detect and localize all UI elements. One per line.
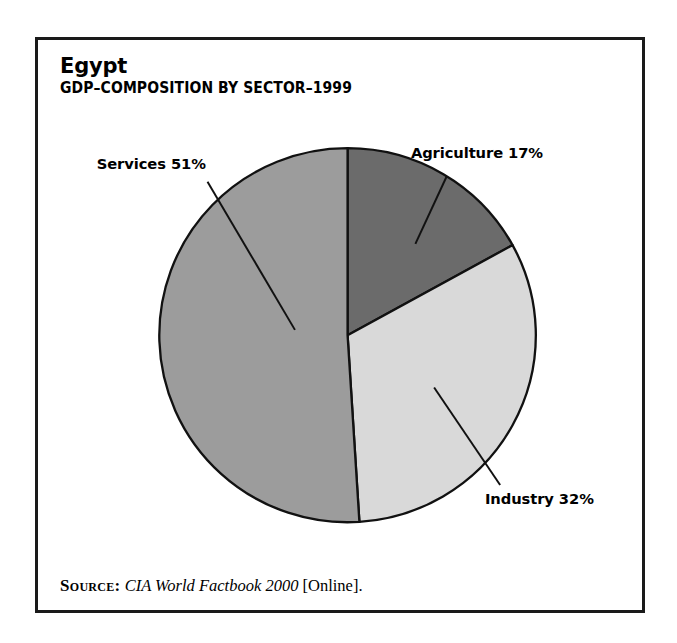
figure-root: Egypt GDP–COMPOSITION BY SECTOR–1999 Agr… — [0, 0, 677, 643]
pie-slice-services — [159, 148, 359, 522]
source-tail: [Online]. — [303, 576, 363, 595]
pie-chart: Agriculture 17%Industry 32%Services 51% — [38, 40, 642, 610]
slice-label-agriculture: Agriculture 17% — [411, 144, 544, 161]
source-note: Source: CIA World Factbook 2000 [Online]… — [60, 576, 363, 596]
figure-frame: Egypt GDP–COMPOSITION BY SECTOR–1999 Agr… — [35, 37, 645, 613]
source-title: CIA World Factbook 2000 — [125, 576, 299, 595]
pie-slice-group — [159, 148, 536, 522]
slice-label-industry: Industry 32% — [485, 490, 594, 507]
slice-label-services: Services 51% — [97, 155, 207, 172]
source-keyword: Source: — [60, 576, 121, 595]
